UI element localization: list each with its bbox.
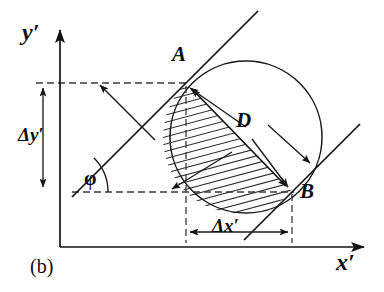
point-label-B: B: [300, 181, 314, 202]
y-axis-label: y′: [22, 20, 39, 44]
figure-container: y′ x′ A B D Δy′ Δx′ φ (b): [0, 0, 384, 292]
point-label-A: A: [172, 44, 186, 65]
chord-label-D: D: [236, 110, 251, 131]
diagram-svg: [0, 0, 384, 292]
chord-D-arrow: [192, 89, 286, 186]
pointer-to-A-from-upper-left: [100, 85, 155, 140]
pointer-D-leader: [268, 125, 310, 163]
phi-angle-label: φ: [84, 168, 96, 188]
figure-caption: (b): [30, 256, 53, 276]
pointer-to-lower-left-edge: [172, 152, 232, 189]
delta-x-label: Δx′: [212, 216, 239, 235]
delta-y-label: Δy′: [18, 125, 44, 144]
tangent-through-A: [72, 11, 258, 197]
x-axis-label: x′: [336, 250, 355, 274]
